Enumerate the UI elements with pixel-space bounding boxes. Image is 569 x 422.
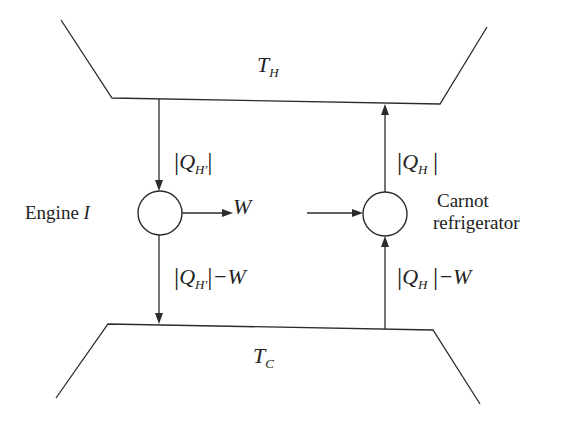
refrigerator-heat-out-arrowhead <box>381 104 389 115</box>
refrigerator-heat-out-label: |QH | <box>397 148 438 174</box>
engine-heat-in-subscript: H′ <box>195 162 207 177</box>
abs-bar-left: | <box>397 147 402 176</box>
refrigerator-heat-in-symbol: Q <box>402 264 418 289</box>
refrigerator-heat-in-label: |QH |−W <box>397 263 471 289</box>
carnot-diagram: TH TC |QH′| Engine I W |QH′|−W |QH | Car… <box>0 0 569 422</box>
refrigerator-heat-in-subscript: H <box>418 277 427 292</box>
refrigerator-heat-out-symbol: Q <box>402 149 418 174</box>
refrigerator-heat-out-subscript: H <box>418 162 427 177</box>
engine-heat-out-symbol: Q <box>179 264 195 289</box>
work-out-arrowhead <box>222 209 233 217</box>
engine-heat-in-arrowhead <box>155 180 163 191</box>
abs-bar-right: | <box>207 262 212 291</box>
refrigerator-label: Carnot refrigerator <box>437 191 520 232</box>
engine-heat-in-symbol: Q <box>179 149 195 174</box>
cold-reservoir-label: TC <box>253 345 274 367</box>
engine-heat-out-suffix: −W <box>213 264 246 289</box>
abs-bar-left: | <box>174 262 179 291</box>
cold-reservoir-subscript: C <box>265 356 274 371</box>
hot-reservoir-subscript: H <box>269 65 278 80</box>
engine-heat-in-label: |QH′| <box>174 148 213 174</box>
abs-bar-right: | <box>207 147 212 176</box>
abs-bar-right: | <box>433 147 438 176</box>
refrigerator-circle <box>363 192 407 236</box>
engine-circle <box>138 191 182 235</box>
hot-reservoir-label: TH <box>257 54 279 76</box>
abs-bar-left: | <box>397 262 402 291</box>
engine-label-var: I <box>84 202 90 223</box>
refrigerator-label-line1: Carnot <box>437 191 520 210</box>
engine-label-text: Engine <box>25 202 79 223</box>
engine-heat-out-label: |QH′|−W <box>174 263 246 289</box>
engine-heat-out-arrowhead <box>155 313 163 324</box>
refrigerator-heat-in-arrowhead <box>381 236 389 247</box>
abs-bar-right: | <box>433 262 438 291</box>
refrigerator-label-line2: refrigerator <box>433 213 520 232</box>
work-in-arrowhead <box>352 209 363 217</box>
abs-bar-left: | <box>174 147 179 176</box>
refrigerator-heat-in-suffix: −W <box>438 264 471 289</box>
hot-reservoir-symbol: T <box>257 52 269 77</box>
work-out-label: W <box>233 196 251 218</box>
engine-heat-out-subscript: H′ <box>195 277 207 292</box>
engine-label: Engine I <box>25 203 90 222</box>
cold-reservoir-symbol: T <box>253 343 265 368</box>
